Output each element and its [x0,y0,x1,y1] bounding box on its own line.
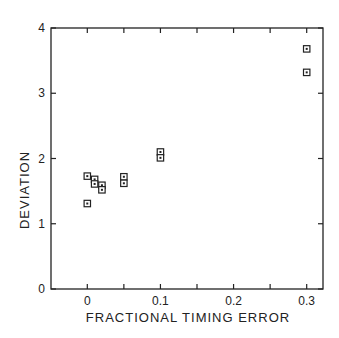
x-axis-ticks: 00.10.20.3 [84,28,315,308]
square-marker-center [306,48,308,50]
y-tick-label: 1 [38,217,45,231]
y-tick-label: 3 [38,86,45,100]
square-marker-center [306,71,308,73]
square-marker-center [86,175,88,177]
x-tick-label: 0.3 [298,294,315,308]
y-axis-title: DEVIATION [17,151,32,229]
square-marker-center [159,151,161,153]
square-marker-center [123,182,125,184]
x-axis-title: FRACTIONAL TIMING ERROR [86,310,290,325]
plot-frame [51,28,323,289]
y-axis-ticks: 01234 [38,21,323,296]
square-marker-center [123,176,125,178]
square-marker-center [101,184,103,186]
plot-border [51,28,323,289]
square-marker-center [94,183,96,185]
square-marker-center [86,203,88,205]
scatter-chart: 00.10.20.3 01234 FRACTIONAL TIMING ERROR… [0,0,339,338]
data-points [84,46,310,207]
x-tick-label: 0 [84,294,91,308]
x-tick-label: 0.2 [225,294,242,308]
y-tick-label: 2 [38,152,45,166]
square-marker-center [101,189,103,191]
square-marker-center [94,178,96,180]
x-tick-label: 0.1 [152,294,169,308]
y-tick-label: 4 [38,21,45,35]
square-marker-center [159,157,161,159]
y-tick-label: 0 [38,282,45,296]
